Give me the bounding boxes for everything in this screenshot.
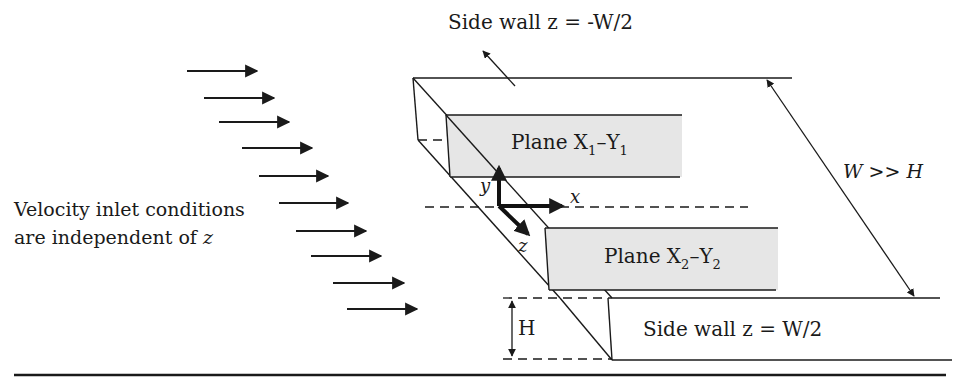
side-wall-bottom-label: Side wall z = W/2 bbox=[643, 317, 822, 341]
axis-y-label: y bbox=[479, 175, 491, 196]
plane2-label: Plane X2–Y2 bbox=[604, 244, 721, 272]
front-face-edge bbox=[608, 298, 612, 360]
inlet-velocity-arrows bbox=[187, 71, 417, 309]
inlet-label-line2: are independent of z bbox=[14, 226, 214, 248]
plane-x1-y1: Plane X1–Y1 bbox=[446, 115, 682, 177]
axis-x-label: x bbox=[570, 186, 580, 207]
side-wall-top-label: Side wall z = -W/2 bbox=[448, 10, 633, 34]
inlet-label-line1: Velocity inlet conditions bbox=[13, 198, 245, 220]
coordinate-axes bbox=[499, 168, 562, 234]
z-axis-arrow bbox=[499, 206, 528, 234]
diagonal-edge-lower bbox=[560, 298, 612, 360]
height-label: H bbox=[518, 316, 535, 340]
side-wall-top-pointer bbox=[483, 51, 515, 86]
axis-z-label: z bbox=[517, 235, 528, 256]
plane-x2-y2: Plane X2–Y2 bbox=[545, 228, 778, 290]
width-dimension-arrow bbox=[767, 80, 914, 296]
plane1-label: Plane X1–Y1 bbox=[511, 130, 628, 158]
inlet-face-edge bbox=[413, 78, 418, 140]
channel-flow-diagram: Velocity inlet conditions are independen… bbox=[0, 0, 956, 381]
width-relation-label: W >> H bbox=[843, 160, 923, 182]
